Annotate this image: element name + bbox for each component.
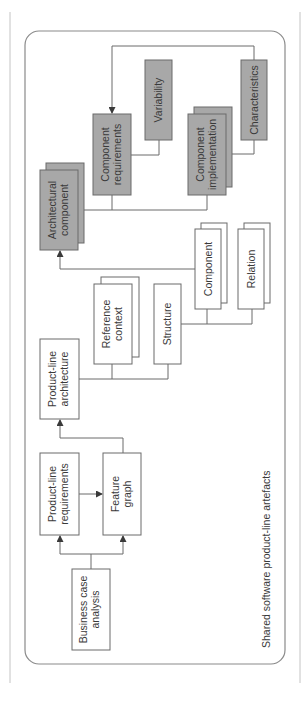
node-label: Feature [109,476,121,512]
frame-caption: Shared software product-line artefacts [260,471,272,648]
node-feature-graph: Feature graph [103,453,141,535]
node-product-line-architecture: Product-line architecture [40,339,79,419]
node-reference-context: Reference context [94,277,139,364]
node-label: implementation [206,119,218,190]
node-label: requirements [111,124,123,185]
node-label: Variability [152,77,164,122]
node-label: Structure [161,303,173,346]
node-label: Reference [100,300,112,349]
node-variability: Variability [145,60,172,140]
node-label: Component [202,242,214,296]
node-structure: Structure [154,284,181,364]
node-label: requirements [58,463,70,524]
node-label: graph [121,480,133,507]
node-label: Product-line [46,466,58,522]
node-label: component [58,184,70,236]
node-business-case-analysis: Business case analysis [72,569,110,650]
node-architectural-component: Architectural component [40,163,84,250]
node-label: Product-line [46,351,58,407]
node-relation: Relation [238,223,270,309]
node-label: architecture [58,351,70,406]
node-label: Business case [77,575,89,643]
node-label: Component [194,127,206,181]
node-characteristics: Characteristics [241,60,267,140]
node-label: analysis [89,591,101,629]
node-component: Component [195,223,227,309]
node-label: Architectural [46,181,58,239]
node-label: Relation [245,250,257,289]
diagram-canvas: Business case analysis Product-line requ… [0,0,305,702]
node-component-implementation: Component implementation [188,107,232,195]
node-label: Component [99,127,111,181]
node-component-requirements: Component requirements [93,114,131,195]
node-product-line-requirements: Product-line requirements [40,453,79,535]
node-label: context [112,307,124,341]
node-label: Characteristics [248,65,260,134]
